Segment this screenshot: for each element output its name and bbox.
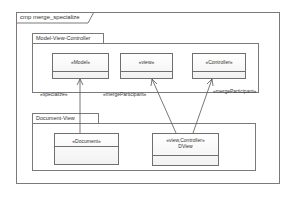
label-merge-participant-controller: «mergeParticipant»: [213, 88, 256, 94]
label-merge-participant-view: «mergeParticipant»: [103, 91, 146, 97]
arrow-merge-controller[interactable]: [193, 79, 213, 133]
relation-arrows: [0, 0, 291, 197]
arrow-specialize[interactable]: [77, 79, 83, 133]
arrow-merge-view[interactable]: [151, 79, 176, 133]
label-specialize: «specialize»: [40, 91, 68, 97]
